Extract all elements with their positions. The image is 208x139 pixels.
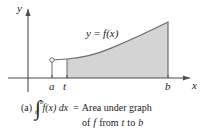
integrand-expression: f(x) dx bbox=[42, 102, 68, 115]
caption-from-word: from bbox=[99, 117, 118, 128]
x-axis-label: x bbox=[192, 80, 197, 91]
caption-line-1: (a) ∫ b t f(x) dx = Area under graph bbox=[0, 98, 208, 118]
curve-label-equals: = bbox=[94, 27, 100, 39]
tick-label-t: t bbox=[63, 81, 66, 92]
plot-area: y x a t b y=f(x) bbox=[0, 0, 208, 96]
open-endpoint-marker bbox=[50, 58, 54, 62]
caption-tag: (a) bbox=[21, 102, 32, 115]
integral-area-figure: y x a t b y=f(x) (a) ∫ b t f(x) dx = Are… bbox=[0, 0, 208, 139]
caption-of-word: of bbox=[82, 117, 90, 128]
integral-upper-limit: b bbox=[40, 99, 44, 106]
definite-integral-expression: ∫ b t f(x) dx bbox=[35, 98, 68, 118]
caption-equals-sign: = bbox=[73, 102, 79, 115]
tick-label-a: a bbox=[49, 81, 55, 92]
caption-f-symbol: f bbox=[93, 117, 96, 128]
y-axis-arrowhead bbox=[25, 9, 30, 16]
curve-label-fx: f(x) bbox=[103, 27, 118, 39]
caption-area-text: Area under graph bbox=[82, 102, 152, 115]
caption-b-symbol: b bbox=[138, 117, 143, 128]
caption-line-2: offfromttob bbox=[0, 117, 208, 130]
caption-to-word: to bbox=[127, 117, 135, 128]
y-axis-label: y bbox=[17, 3, 22, 14]
curve-equation-label: y=f(x) bbox=[86, 28, 118, 39]
caption-t-symbol: t bbox=[122, 117, 125, 128]
plot-svg bbox=[0, 0, 208, 96]
x-axis-arrowhead bbox=[183, 75, 190, 80]
integral-lower-limit: t bbox=[35, 109, 39, 116]
tick-label-b: b bbox=[165, 81, 171, 92]
integral-limits: b t bbox=[38, 97, 42, 117]
figure-caption: (a) ∫ b t f(x) dx = Area under graph off… bbox=[0, 98, 208, 130]
curve-label-y: y bbox=[86, 27, 91, 39]
